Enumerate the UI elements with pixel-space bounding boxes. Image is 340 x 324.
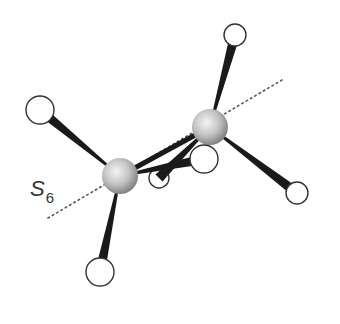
molecule-canvas: S6: [0, 0, 340, 324]
hydrogen-atom: [286, 182, 308, 204]
hydrogen-atom: [190, 145, 218, 173]
axis-label: S6: [30, 176, 54, 206]
front-hydrogens: [26, 24, 308, 286]
ethane-s6-diagram: S6: [0, 0, 340, 324]
hydrogen-atom: [26, 96, 54, 124]
axis-subscript: 6: [46, 189, 54, 206]
axis-symbol: S: [30, 176, 45, 201]
carbon-atom: [102, 158, 138, 194]
carbon-atom: [192, 109, 228, 145]
hydrogen-atom: [224, 24, 246, 46]
bonds: [37, 34, 300, 273]
hydrogen-atom: [86, 258, 114, 286]
